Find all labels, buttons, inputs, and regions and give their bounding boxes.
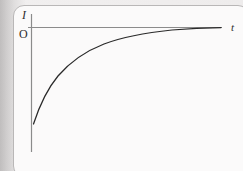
exponential-rise-curve xyxy=(34,28,222,124)
x-axis-label: t xyxy=(231,22,234,33)
graph-plot xyxy=(0,0,243,171)
figure-page: I O t xyxy=(0,0,243,171)
y-axis-label: I xyxy=(22,9,26,21)
origin-label: O xyxy=(19,28,28,40)
